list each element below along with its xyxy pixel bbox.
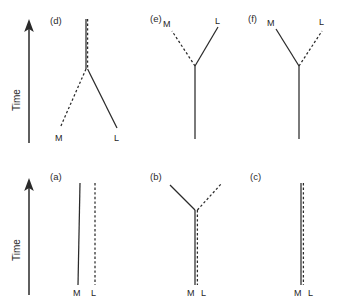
panel-a-tip-label-l: L	[91, 288, 96, 298]
time-axis-bottom: Time	[11, 178, 34, 295]
panel-a-label: (a)	[50, 171, 62, 182]
panel-d: (d) M L	[50, 15, 119, 143]
panel-e: (e) M L	[150, 13, 220, 139]
time-axis-top-label: Time	[11, 89, 22, 111]
panel-f-label: (f)	[248, 13, 257, 24]
panel-a: (a) M L	[50, 171, 96, 298]
panel-c-tip-label-m: M	[294, 288, 302, 298]
panel-c-label: (c)	[250, 171, 261, 182]
panel-e-tip-label-l: L	[215, 16, 220, 26]
panel-f-tip-label-l: L	[319, 17, 324, 27]
time-axis-top: Time	[11, 19, 34, 143]
panel-e-branch-l	[195, 27, 218, 66]
diagram-svg: Time (d) M L (e) M L	[0, 0, 344, 305]
panel-f-tip-label-m: M	[267, 18, 275, 28]
panel-d-label: (d)	[50, 15, 62, 26]
panel-f-branch-m	[276, 29, 299, 66]
panel-d-branch-m	[60, 69, 86, 128]
panel-c-tip-label-l: L	[308, 288, 313, 298]
panel-b: (b) M L	[150, 171, 222, 298]
panel-b-branch-m	[170, 185, 195, 210]
panel-d-branch-l	[88, 69, 117, 128]
panel-d-tip-label-l: L	[114, 133, 119, 143]
panel-a-tip-label-m: M	[73, 288, 81, 298]
panel-b-branch-l	[197, 183, 222, 210]
panel-e-tip-label-m: M	[163, 19, 171, 29]
panel-d-tip-label-m: M	[55, 133, 63, 143]
panel-b-tip-label-m: M	[187, 288, 195, 298]
panel-b-label: (b)	[150, 171, 162, 182]
panel-e-label: (e)	[150, 13, 162, 24]
panel-c: (c) M L	[250, 171, 313, 298]
panel-e-branch-m	[172, 31, 195, 66]
panel-f-branch-l	[299, 31, 322, 66]
panel-a-branch-m	[78, 183, 80, 285]
time-axis-bottom-label: Time	[11, 239, 22, 261]
figure-canvas: Time (d) M L (e) M L	[0, 0, 344, 305]
panel-b-tip-label-l: L	[201, 288, 206, 298]
panel-f: (f) M L	[248, 13, 324, 139]
